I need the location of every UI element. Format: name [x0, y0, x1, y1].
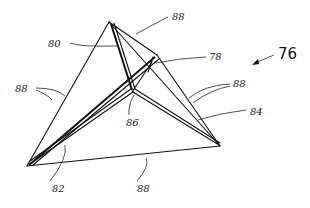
- label-78: 78: [209, 51, 222, 62]
- pyramid-drawing: 80 88 78 76 88 88 86 84 82 88: [0, 0, 310, 208]
- label-88-bottom: 88: [137, 183, 150, 194]
- label-80: 80: [48, 38, 61, 49]
- label-82: 82: [52, 183, 65, 194]
- label-84: 84: [250, 106, 263, 117]
- label-88-top: 88: [172, 11, 185, 22]
- label-86: 86: [126, 117, 139, 128]
- label-88-right: 88: [233, 78, 246, 89]
- label-88-left: 88: [15, 83, 28, 94]
- figure-number-76: 76: [278, 45, 297, 63]
- leader-lines: [36, 17, 274, 181]
